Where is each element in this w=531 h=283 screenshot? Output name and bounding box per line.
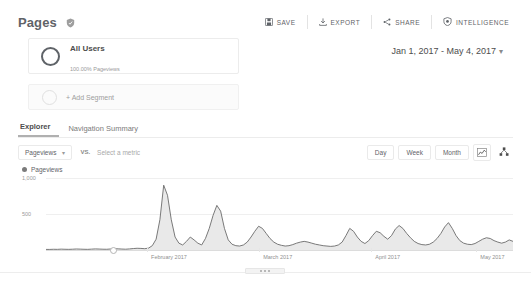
chart-controls: Day Week Month — [367, 144, 513, 161]
segment-ring-empty-icon — [42, 90, 57, 105]
line-chart-icon — [477, 143, 487, 161]
save-button[interactable]: SAVE — [257, 16, 304, 29]
intelligence-button-label: INTELLIGENCE — [456, 19, 509, 26]
pageviews-series — [46, 178, 513, 251]
x-axis-tick-february: February 2017 — [151, 254, 187, 260]
header-actions: SAVE EXPORT — [257, 15, 517, 29]
granularity-week-button[interactable]: Week — [398, 145, 431, 160]
date-range-label: Jan 1, 2017 - May 4, 2017 — [391, 46, 496, 56]
chevron-down-icon: ▾ — [499, 47, 503, 56]
google-analytics-pages-report: Pages S — [0, 0, 531, 283]
add-segment-label: + Add Segment — [66, 94, 114, 101]
legend-dot-icon — [22, 167, 27, 172]
intelligence-button[interactable]: INTELLIGENCE — [435, 15, 517, 29]
x-axis-separator — [476, 248, 477, 252]
x-axis-tick-april: April 2017 — [375, 254, 400, 260]
report-card: Pages S — [0, 0, 531, 283]
segment-all-users[interactable]: All Users 100.00% Pageviews — [28, 38, 239, 74]
vs-label: VS. — [80, 149, 90, 155]
share-button[interactable]: SHARE — [375, 16, 428, 29]
report-header: Pages S — [0, 8, 531, 36]
page-title: Pages — [18, 13, 75, 32]
intelligence-shield-icon — [443, 17, 452, 27]
segment-text: All Users 100.00% Pageviews — [70, 36, 120, 76]
granularity-day-label: Day — [375, 149, 387, 156]
granularity-day-button[interactable]: Day — [367, 145, 395, 160]
tab-navigation-summary[interactable]: Navigation Summary — [59, 124, 147, 137]
header-divider — [307, 15, 308, 29]
save-icon — [265, 18, 273, 27]
export-button-label: EXPORT — [331, 19, 361, 26]
chart-plot-area[interactable]: 1,000 500 — [18, 178, 513, 250]
annotations-button[interactable] — [495, 144, 513, 161]
x-axis-separator — [371, 248, 372, 252]
chevron-down-icon: ▾ — [62, 149, 65, 156]
secondary-metric-select[interactable]: Select a metric — [97, 149, 140, 156]
granularity-week-label: Week — [406, 149, 423, 156]
segment-sublabel: 100.00% Pageviews — [70, 66, 120, 72]
x-axis: February 2017 March 2017 April 2017 May … — [18, 252, 513, 266]
legend-label-pageviews: Pageviews — [31, 166, 62, 173]
y-axis-tick-500: 500 — [22, 211, 31, 217]
x-axis-tick-may: May 2017 — [480, 254, 504, 260]
tab-navigation-summary-label: Navigation Summary — [68, 124, 138, 133]
segment-ring-icon — [41, 47, 60, 66]
x-axis-separator — [147, 248, 148, 252]
export-download-icon — [319, 18, 327, 27]
export-button[interactable]: EXPORT — [311, 16, 369, 29]
primary-metric-select[interactable]: Pageviews ▾ — [18, 145, 72, 160]
y-axis-tick-1000: 1,000 — [22, 175, 36, 181]
chart-type-button[interactable] — [473, 144, 491, 161]
scatter-nodes-icon — [499, 143, 510, 161]
share-icon — [383, 18, 391, 27]
granularity-month-label: Month — [443, 149, 461, 156]
tab-explorer[interactable]: Explorer — [18, 122, 59, 137]
primary-metric-label: Pageviews — [25, 149, 56, 156]
chart-legend: Pageviews — [22, 166, 62, 173]
share-button-label: SHARE — [395, 19, 420, 26]
header-divider — [431, 15, 432, 29]
x-axis-tick-march: March 2017 — [263, 254, 292, 260]
pageviews-chart: Pageviews 1,000 500 February 2017 March … — [18, 166, 513, 266]
granularity-month-button[interactable]: Month — [435, 145, 469, 160]
header-divider — [371, 15, 372, 29]
date-range-selector[interactable]: Jan 1, 2017 - May 4, 2017▾ — [391, 46, 503, 56]
segment-bar: All Users 100.00% Pageviews + Add Segmen… — [18, 38, 513, 114]
segment-name: All Users — [70, 44, 105, 53]
add-segment-button[interactable]: + Add Segment — [28, 84, 239, 110]
page-title-text: Pages — [18, 15, 57, 30]
report-tabs: Explorer Navigation Summary — [18, 119, 513, 138]
shield-check-icon — [66, 14, 75, 32]
save-button-label: SAVE — [277, 19, 296, 26]
x-axis-separator — [259, 248, 260, 252]
drag-handle-icon[interactable] — [245, 268, 285, 274]
metric-row: Pageviews ▾ VS. Select a metric Day Week… — [18, 141, 513, 163]
tab-explorer-label: Explorer — [20, 122, 50, 131]
